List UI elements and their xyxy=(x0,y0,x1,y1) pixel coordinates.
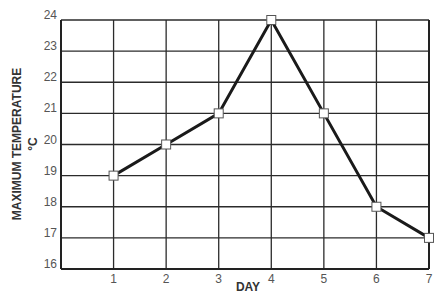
data-point-marker xyxy=(267,16,276,25)
y-tick-label: 16 xyxy=(44,257,58,271)
y-tick-label: 24 xyxy=(44,8,58,22)
x-tick-label: 7 xyxy=(426,272,433,286)
temperature-line-chart: 161718192021222324 1234567 DAY MAXIMUM T… xyxy=(0,0,441,296)
y-tick-labels: 161718192021222324 xyxy=(44,8,58,271)
y-axis-title: MAXIMUM TEMPERATURE xyxy=(10,68,24,220)
y-tick-label: 18 xyxy=(44,195,58,209)
data-point-marker xyxy=(425,233,434,242)
x-tick-label: 6 xyxy=(373,272,380,286)
data-point-marker xyxy=(319,109,328,118)
x-tick-label: 4 xyxy=(268,272,275,286)
data-point-marker xyxy=(372,202,381,211)
x-tick-label: 1 xyxy=(110,272,117,286)
data-point-marker xyxy=(162,140,171,149)
y-tick-label: 23 xyxy=(44,39,58,53)
y-axis-unit: °C xyxy=(26,137,40,151)
x-axis-title: DAY xyxy=(236,280,260,294)
data-point-marker xyxy=(214,109,223,118)
grid-lines xyxy=(61,20,429,269)
x-tick-label: 2 xyxy=(163,272,170,286)
data-point-marker xyxy=(109,171,118,180)
x-tick-labels: 1234567 xyxy=(110,272,432,286)
y-tick-label: 19 xyxy=(44,164,58,178)
y-tick-label: 20 xyxy=(44,133,58,147)
x-tick-label: 5 xyxy=(321,272,328,286)
y-tick-label: 22 xyxy=(44,70,58,84)
y-tick-label: 17 xyxy=(44,226,58,240)
y-tick-label: 21 xyxy=(44,101,58,115)
x-tick-label: 3 xyxy=(215,272,222,286)
